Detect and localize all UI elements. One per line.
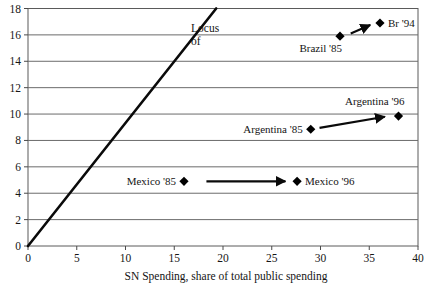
y-tick-label-10: 10	[10, 108, 22, 120]
y-tick-label-4: 4	[15, 187, 21, 199]
x-tick-label-15: 15	[169, 252, 181, 264]
x-tick-label-10: 10	[120, 252, 132, 264]
y-tick-label-16: 16	[10, 29, 22, 41]
scatter-chart: 024681012141618 0510152025303540 Locus o…	[0, 0, 433, 291]
x-tick-label-25: 25	[266, 252, 278, 264]
y-tick-label-8: 8	[15, 134, 21, 146]
x-tick-label-0: 0	[25, 252, 31, 264]
x-tick-label-5: 5	[74, 252, 80, 264]
label-mexico-85: Mexico '85	[127, 175, 177, 187]
chart-background	[0, 0, 433, 291]
y-tick-label-2: 2	[15, 214, 21, 226]
x-tick-label-20: 20	[217, 252, 229, 264]
label-brazil-94: Br '94	[388, 17, 415, 29]
x-axis-title: SN Spending, share of total public spend…	[125, 270, 328, 283]
y-tick-label-0: 0	[15, 240, 21, 252]
x-tick-label-40: 40	[412, 252, 424, 264]
y-tick-label-18: 18	[10, 3, 22, 15]
label-argentina-85: Argentina '85	[243, 123, 303, 135]
y-tick-label-12: 12	[10, 82, 22, 94]
y-tick-label-14: 14	[10, 55, 22, 67]
locus-annotation-line1: Locus	[191, 22, 220, 34]
locus-annotation-line2: of	[191, 35, 201, 47]
chart-container: 024681012141618 0510152025303540 Locus o…	[0, 0, 433, 291]
x-tick-label-35: 35	[364, 252, 376, 264]
y-tick-label-6: 6	[15, 161, 21, 173]
label-mexico-96: Mexico '96	[305, 175, 355, 187]
x-tick-label-30: 30	[315, 252, 327, 264]
label-brazil-85: Brazil '85	[299, 42, 342, 54]
label-argentina-96: Argentina '96	[345, 95, 405, 107]
